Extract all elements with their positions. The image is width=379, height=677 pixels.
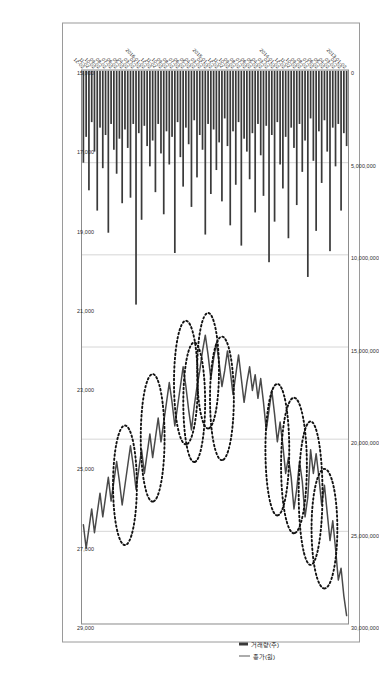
legend-item-price: 종가(원) bbox=[239, 651, 275, 660]
legend-line-swatch-icon bbox=[239, 655, 250, 656]
primary-tick-label: 15,000,000 bbox=[351, 347, 379, 353]
secondary-tick-label: 29,000 bbox=[77, 624, 94, 630]
secondary-tick-label: 27,000 bbox=[77, 545, 94, 551]
chart-legend: 거래량(주) 종가(원) bbox=[171, 635, 241, 677]
secondary-tick-label: 25,000 bbox=[77, 465, 94, 471]
plot-svg bbox=[82, 70, 348, 623]
legend-label-volume: 거래량(주) bbox=[251, 639, 279, 648]
legend-label-price: 종가(원) bbox=[253, 651, 275, 660]
primary-tick-label: 0 bbox=[351, 69, 354, 75]
primary-tick-label: 20,000,000 bbox=[351, 439, 379, 445]
primary-tick-label: 10,000,000 bbox=[351, 254, 379, 260]
legend-bar-swatch-icon bbox=[239, 642, 248, 645]
secondary-tick-label: 15,000 bbox=[77, 69, 94, 75]
primary-tick-label: 30,000,000 bbox=[351, 624, 379, 630]
category-axis: 2013-01-0202-0203-0204-0205-0206-0207-02… bbox=[81, 23, 349, 69]
primary-tick-label: 25,000,000 bbox=[351, 532, 379, 538]
chart-frame: 05,000,00010,000,00015,000,00020,000,000… bbox=[62, 22, 360, 642]
secondary-tick-label: 21,000 bbox=[77, 307, 94, 313]
volume-bar-series bbox=[83, 70, 348, 304]
secondary-tick-label: 19,000 bbox=[77, 228, 94, 234]
plot-area bbox=[81, 69, 349, 624]
primary-tick-label: 5,000,000 bbox=[351, 162, 376, 168]
secondary-tick-label: 17,000 bbox=[77, 148, 94, 154]
legend-item-volume: 거래량(주) bbox=[239, 639, 279, 648]
secondary-value-axis: 15,00017,00019,00021,00023,00025,00027,0… bbox=[61, 69, 81, 624]
ellipse-annotations bbox=[113, 312, 337, 588]
primary-value-axis: 05,000,00010,000,00015,000,00020,000,000… bbox=[349, 69, 359, 624]
secondary-tick-label: 23,000 bbox=[77, 386, 94, 392]
